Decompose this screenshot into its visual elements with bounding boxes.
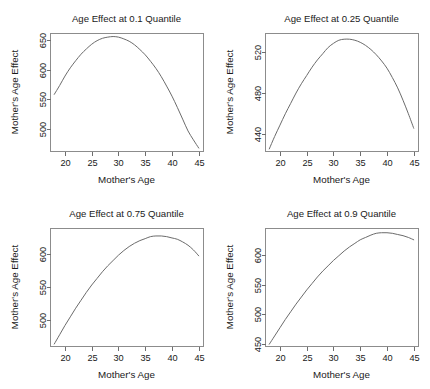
- y-axis-label: Mother's Age Effect: [224, 244, 235, 329]
- x-tick-label: 40: [382, 158, 392, 168]
- panel-age-effect-0.25-quantile: Age Effect at 0.25 Quantile2025303540454…: [215, 0, 430, 194]
- y-tick-label: 520: [253, 45, 263, 60]
- y-tick-label: 480: [253, 86, 263, 101]
- panel-age-effect-0.1-quantile: Age Effect at 0.1 Quantile20253035404550…: [0, 0, 215, 194]
- x-tick-label: 45: [409, 353, 419, 363]
- x-tick-label: 40: [382, 353, 392, 363]
- quantile-regression-figure: Age Effect at 0.1 Quantile20253035404550…: [0, 0, 430, 389]
- y-tick-label: 600: [253, 248, 263, 263]
- y-tick-label: 450: [253, 337, 263, 352]
- panel-title: Age Effect at 0.9 Quantile: [287, 208, 396, 219]
- x-tick-label: 20: [60, 353, 70, 363]
- panel-q025-canvas: Age Effect at 0.25 Quantile2025303540454…: [215, 0, 430, 194]
- panel-age-effect-0.75-quantile: Age Effect at 0.75 Quantile2025303540455…: [0, 195, 215, 389]
- x-axis-label: Mother's Age: [98, 174, 155, 185]
- x-tick-label: 20: [275, 158, 285, 168]
- plot-frame: [51, 34, 204, 152]
- age-effect-curve: [269, 233, 413, 345]
- x-tick-label: 25: [302, 353, 312, 363]
- plot-frame: [266, 34, 419, 152]
- x-tick-label: 25: [87, 353, 97, 363]
- x-tick-label: 20: [275, 353, 285, 363]
- x-tick-label: 45: [194, 158, 204, 168]
- x-tick-label: 40: [167, 353, 177, 363]
- x-tick-label: 35: [355, 158, 365, 168]
- x-tick-label: 45: [409, 158, 419, 168]
- x-axis-label: Mother's Age: [313, 369, 370, 380]
- age-effect-curve: [269, 39, 413, 149]
- y-tick-label: 440: [253, 127, 263, 142]
- x-tick-label: 25: [302, 158, 312, 168]
- y-tick-label: 500: [38, 313, 48, 328]
- panel-title: Age Effect at 0.75 Quantile: [69, 208, 184, 219]
- x-axis-label: Mother's Age: [98, 369, 155, 380]
- y-axis-label: Mother's Age Effect: [224, 49, 235, 134]
- panel-q090-canvas: Age Effect at 0.9 Quantile20253035404545…: [215, 195, 430, 389]
- x-tick-label: 20: [60, 158, 70, 168]
- y-tick-label: 600: [38, 247, 48, 262]
- x-tick-label: 35: [140, 158, 150, 168]
- x-tick-label: 30: [328, 353, 338, 363]
- y-tick-label: 550: [38, 92, 48, 107]
- x-tick-label: 35: [140, 353, 150, 363]
- x-tick-label: 30: [328, 158, 338, 168]
- y-tick-label: 550: [253, 278, 263, 293]
- x-axis-label: Mother's Age: [313, 174, 370, 185]
- x-tick-label: 40: [167, 158, 177, 168]
- y-axis-label: Mother's Age Effect: [9, 49, 20, 134]
- age-effect-curve: [54, 37, 198, 149]
- x-tick-label: 45: [194, 353, 204, 363]
- panel-title: Age Effect at 0.1 Quantile: [72, 13, 181, 24]
- y-tick-label: 550: [38, 280, 48, 295]
- y-tick-label: 500: [253, 307, 263, 322]
- x-tick-label: 30: [113, 353, 123, 363]
- y-tick-label: 500: [38, 122, 48, 137]
- x-tick-label: 25: [87, 158, 97, 168]
- x-tick-label: 35: [355, 353, 365, 363]
- panel-title: Age Effect at 0.25 Quantile: [284, 13, 399, 24]
- x-tick-label: 30: [113, 158, 123, 168]
- y-tick-label: 600: [38, 63, 48, 78]
- panel-q010-canvas: Age Effect at 0.1 Quantile20253035404550…: [0, 0, 215, 194]
- y-axis-label: Mother's Age Effect: [9, 244, 20, 329]
- plot-frame: [266, 229, 419, 347]
- panel-q075-canvas: Age Effect at 0.75 Quantile2025303540455…: [0, 195, 215, 389]
- panel-age-effect-0.9-quantile: Age Effect at 0.9 Quantile20253035404545…: [215, 195, 430, 389]
- plot-frame: [51, 229, 204, 347]
- age-effect-curve: [54, 236, 198, 344]
- y-tick-label: 650: [38, 33, 48, 48]
